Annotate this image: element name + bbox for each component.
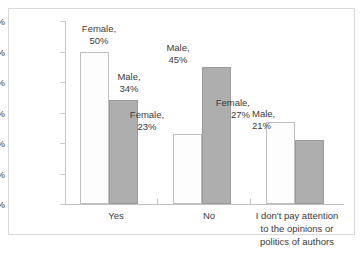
bar-female[interactable]	[266, 122, 295, 204]
bar-male[interactable]	[202, 67, 231, 204]
y-tick-label: 20.00%	[0, 138, 5, 149]
y-tick	[60, 204, 65, 205]
y-tick-label: 60.00%	[0, 16, 5, 27]
bar-female[interactable]	[173, 134, 202, 204]
category-label-attention: I don't pay attention to the opinions or…	[244, 209, 350, 248]
data-label-male-attention: Male, 21%	[252, 108, 308, 131]
data-label-male-yes: Male, 34%	[101, 71, 157, 94]
y-tick-label: 0.00%	[0, 199, 5, 210]
data-label-female-yes: Female, 50%	[71, 23, 127, 46]
y-tick-label: 30.00%	[0, 107, 5, 118]
bar-male[interactable]	[295, 140, 324, 204]
chart-container: 60.00% 50.00% 40.00% 30.00% 20.00% 10.00…	[8, 8, 355, 235]
y-tick-label: 40.00%	[0, 77, 5, 88]
y-tick-label: 50.00%	[0, 46, 5, 57]
y-tick-label: 10.00%	[0, 168, 5, 179]
x-axis-line	[65, 204, 344, 205]
category-label-yes: Yes	[75, 209, 157, 222]
data-label-male-no: Male, 45%	[150, 42, 206, 65]
data-label-female-no: Female, 23%	[119, 109, 175, 132]
data-label-female-attention: Female, 27%	[194, 97, 250, 120]
category-label-no: No	[168, 209, 250, 222]
